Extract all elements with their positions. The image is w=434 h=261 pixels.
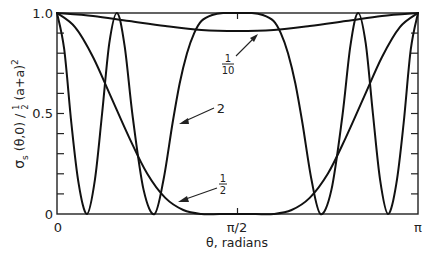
annotation-half: 1 2 bbox=[178, 173, 227, 202]
label-half-den: 2 bbox=[220, 185, 226, 196]
annotation-one-tenth: 1 10 bbox=[222, 34, 258, 76]
svg-text:σs (θ,0) / 12 (a+a)2: σs (θ,0) / 12 (a+a)2 bbox=[10, 59, 30, 169]
x-tick-label-0: 0 bbox=[54, 220, 62, 235]
axis-ticks bbox=[57, 13, 418, 214]
curve-1-over-2 bbox=[57, 13, 418, 214]
x-tick-label-pi: π bbox=[414, 220, 422, 235]
y-axis-title: σs (θ,0) / 12 (a+a)2 bbox=[10, 59, 30, 169]
x-tick-label-half-pi: π/2 bbox=[227, 220, 247, 235]
y-axis-title-sup: 2 bbox=[10, 59, 20, 65]
annotation-two: 2 bbox=[179, 101, 225, 124]
arrowhead-icon bbox=[179, 118, 189, 124]
plot-frame bbox=[57, 13, 418, 214]
curve-2 bbox=[57, 13, 418, 214]
y-tick-label-half: 0.5 bbox=[32, 106, 53, 121]
curves bbox=[57, 13, 418, 214]
x-axis-title: θ, radians bbox=[206, 235, 268, 250]
label-one-tenth-den: 10 bbox=[222, 65, 235, 76]
y-tick-label-1: 1.0 bbox=[32, 6, 53, 21]
y-axis-title-tail: (a+a) bbox=[12, 65, 27, 105]
arrow-line bbox=[183, 188, 217, 200]
chart: 1.0 0.5 0 0 π/2 π θ, radians σs (θ,0) / … bbox=[0, 0, 434, 261]
label-two: 2 bbox=[217, 101, 225, 116]
arrowhead-icon bbox=[178, 196, 189, 202]
y-axis-title-sigma: σ bbox=[11, 160, 27, 169]
label-one-tenth-num: 1 bbox=[225, 53, 231, 64]
label-half-num: 1 bbox=[220, 173, 226, 184]
y-tick-label-0: 0 bbox=[45, 207, 53, 222]
y-axis-title-rest: (θ,0) / bbox=[12, 110, 27, 155]
